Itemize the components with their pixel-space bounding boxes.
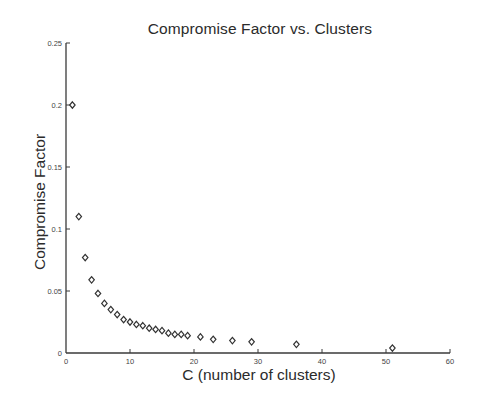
diamond-marker bbox=[102, 300, 107, 306]
y-tick-label: 0.25 bbox=[47, 39, 62, 48]
data-points bbox=[70, 102, 395, 351]
diamond-marker bbox=[82, 254, 87, 260]
diamond-marker bbox=[166, 330, 171, 336]
diamond-marker bbox=[198, 334, 203, 340]
x-tick-label: 10 bbox=[126, 357, 134, 366]
diamond-marker bbox=[210, 336, 215, 342]
x-axis-label: C (number of clusters) bbox=[0, 366, 478, 384]
x-tick-label: 20 bbox=[190, 357, 198, 366]
plot-area: 00.050.10.150.20.25 0102030405060 bbox=[0, 0, 478, 405]
x-tick-label: 30 bbox=[254, 357, 262, 366]
diamond-marker bbox=[185, 332, 190, 338]
diamond-marker bbox=[230, 337, 235, 343]
diamond-marker bbox=[159, 327, 164, 333]
diamond-marker bbox=[127, 319, 132, 325]
diamond-marker bbox=[95, 290, 100, 296]
axes bbox=[66, 43, 450, 353]
diamond-marker bbox=[172, 331, 177, 337]
x-tick-label: 50 bbox=[382, 357, 390, 366]
y-tick-label: 0.05 bbox=[47, 287, 62, 296]
y-tick-label: 0.15 bbox=[47, 163, 62, 172]
x-tick-label: 60 bbox=[446, 357, 454, 366]
diamond-marker bbox=[146, 325, 151, 331]
diamond-marker bbox=[121, 316, 126, 322]
diamond-marker bbox=[390, 345, 395, 351]
diamond-marker bbox=[140, 323, 145, 329]
y-tick-label: 0.2 bbox=[52, 101, 62, 110]
diamond-marker bbox=[249, 339, 254, 345]
diamond-marker bbox=[134, 321, 139, 327]
diamond-marker bbox=[108, 306, 113, 312]
y-axis-label: Compromise Factor bbox=[31, 134, 49, 270]
diamond-marker bbox=[294, 341, 299, 347]
diamond-marker bbox=[89, 277, 94, 283]
diamond-marker bbox=[76, 213, 81, 219]
x-tick-label: 0 bbox=[64, 357, 68, 366]
diamond-marker bbox=[153, 326, 158, 332]
y-tick-label: 0.1 bbox=[52, 225, 62, 234]
diamond-marker bbox=[114, 311, 119, 317]
diamond-marker bbox=[178, 331, 183, 337]
x-axis-ticks: 0102030405060 bbox=[64, 349, 454, 366]
scatter-chart: Compromise Factor vs. Clusters 00.050.10… bbox=[0, 0, 478, 405]
diamond-marker bbox=[70, 102, 75, 108]
y-tick-label: 0 bbox=[58, 349, 62, 358]
x-tick-label: 40 bbox=[318, 357, 326, 366]
